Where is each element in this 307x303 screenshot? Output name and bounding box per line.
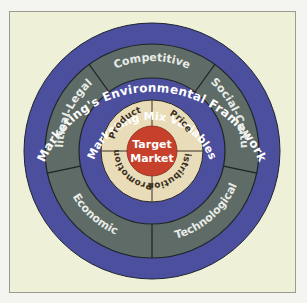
diagram-canvas: Marketing's Environmental Framework Comp… [0,0,307,303]
target-market-center [127,126,177,176]
center-label-line1: Target [132,138,172,151]
center-label-line2: Market [130,152,174,165]
